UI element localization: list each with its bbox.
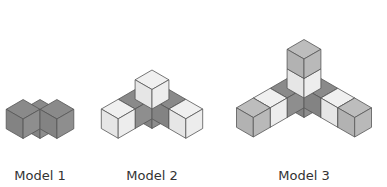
model-3-label: Model 3 [278, 168, 329, 183]
model-2-label: Model 2 [126, 168, 177, 183]
model-1-label: Model 1 [14, 168, 65, 183]
cube-models-diagram [0, 0, 387, 187]
